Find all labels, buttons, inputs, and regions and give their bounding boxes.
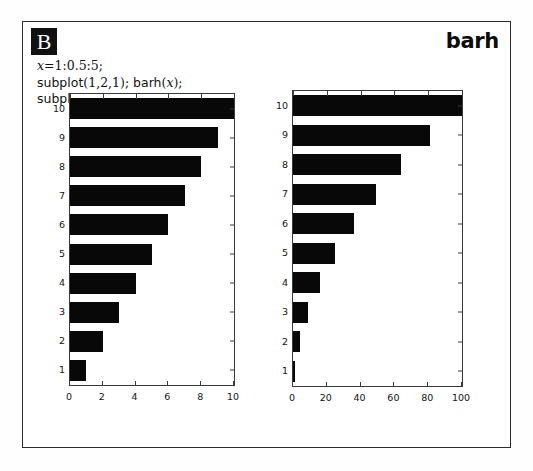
x-axis-tick	[461, 382, 462, 387]
y-axis-tick-label: 10	[276, 99, 288, 110]
y-axis-tick	[230, 166, 234, 167]
x-axis-tick	[393, 382, 394, 387]
y-axis-tick	[230, 283, 234, 284]
plots-container: 12345678910 0246810 12345678910 02040608…	[23, 22, 510, 447]
x-axis-tick-label: 0	[66, 391, 72, 402]
y-axis-tick	[458, 312, 462, 313]
y-axis-tick-label: 5	[59, 248, 65, 259]
bar	[70, 360, 86, 381]
y-axis-tick	[458, 282, 462, 283]
bar	[70, 331, 103, 352]
x-axis-tick	[427, 382, 428, 387]
y-axis-tick	[230, 108, 234, 109]
x-axis-tick	[200, 381, 201, 386]
y-axis-tick-label: 7	[59, 189, 65, 200]
bar	[293, 272, 320, 293]
bar	[70, 302, 119, 323]
x-axis-tick-top	[168, 94, 169, 99]
y-axis-tick-label: 4	[59, 277, 65, 288]
y-axis-tick-label: 10	[53, 102, 65, 113]
x-axis-tick-label: 60	[387, 392, 399, 403]
y-axis-tick-label: 1	[282, 365, 288, 376]
y-axis-tick	[458, 135, 462, 136]
y-axis-tick	[458, 194, 462, 195]
y-axis-tick-label: 9	[59, 131, 65, 142]
y-axis-tick-label: 9	[282, 129, 288, 140]
x-axis-tick-top	[70, 94, 71, 99]
bar	[293, 361, 295, 382]
figure-panel: B barh x=1:0.5:5;subplot(1,2,1); barh(x)…	[0, 0, 533, 471]
x-axis-tick-label: 80	[421, 392, 433, 403]
y-axis-tick	[230, 137, 234, 138]
y-axis-tick-label: 5	[282, 247, 288, 258]
y-axis-tick-label: 8	[59, 160, 65, 171]
bar	[293, 95, 462, 116]
plot-box-left	[69, 93, 235, 386]
bar	[293, 154, 401, 175]
x-axis-tick-label: 6	[164, 391, 170, 402]
x-axis-tick-top	[428, 91, 429, 96]
y-axis-tick	[458, 253, 462, 254]
x-axis-tick-top	[394, 91, 395, 96]
y-axis-tick-label: 2	[59, 335, 65, 346]
y-axis-tick-label: 8	[282, 158, 288, 169]
y-axis-tick-label: 1	[59, 364, 65, 375]
x-axis-tick-label: 40	[354, 392, 366, 403]
y-axis-tick	[230, 254, 234, 255]
x-axis-tick-top	[136, 94, 137, 99]
x-axis-tick-label: 100	[452, 392, 470, 403]
bar	[293, 302, 308, 323]
y-axis-tick	[458, 105, 462, 106]
y-axis-tick	[230, 370, 234, 371]
y-axis-tick-label: 3	[59, 306, 65, 317]
bar	[70, 98, 234, 119]
y-axis-left: 12345678910	[43, 93, 69, 386]
x-axis-tick-top	[462, 91, 463, 96]
y-axis-tick-label: 7	[282, 188, 288, 199]
y-axis-tick	[230, 224, 234, 225]
x-axis-tick-label: 2	[99, 391, 105, 402]
plot-box-right	[292, 90, 463, 387]
x-axis-tick-top	[201, 94, 202, 99]
bar	[70, 214, 168, 235]
y-axis-tick	[458, 164, 462, 165]
bar	[293, 243, 335, 264]
x-axis-tick-top	[293, 91, 294, 96]
x-axis-tick-label: 20	[320, 392, 332, 403]
x-axis-tick-top	[103, 94, 104, 99]
y-axis-right: 12345678910	[266, 90, 292, 387]
bar	[70, 127, 218, 148]
x-axis-tick	[292, 382, 293, 387]
bar	[293, 125, 430, 146]
y-axis-tick	[230, 341, 234, 342]
x-axis-tick	[102, 381, 103, 386]
y-axis-tick-label: 4	[282, 276, 288, 287]
y-axis-tick-label: 6	[282, 217, 288, 228]
x-axis-tick-label: 10	[227, 391, 239, 402]
x-axis-tick	[233, 381, 234, 386]
y-axis-tick	[230, 195, 234, 196]
y-axis-tick-label: 6	[59, 218, 65, 229]
bar	[70, 185, 185, 206]
bar	[70, 244, 152, 265]
y-axis-tick-label: 2	[282, 335, 288, 346]
bars-left	[70, 94, 234, 385]
y-axis-tick	[458, 223, 462, 224]
bar	[70, 156, 201, 177]
bars-right	[293, 91, 462, 386]
x-axis-tick-top	[361, 91, 362, 96]
y-axis-tick	[458, 371, 462, 372]
bar	[293, 184, 376, 205]
x-axis-tick	[326, 382, 327, 387]
y-axis-tick	[458, 341, 462, 342]
x-axis-right: 020406080100	[292, 387, 463, 409]
x-axis-tick-top	[327, 91, 328, 96]
x-axis-tick	[167, 381, 168, 386]
x-axis-left: 0246810	[69, 386, 235, 408]
x-axis-tick	[135, 381, 136, 386]
x-axis-tick-label: 0	[289, 392, 295, 403]
y-axis-tick	[230, 312, 234, 313]
figure-frame: B barh x=1:0.5:5;subplot(1,2,1); barh(x)…	[22, 21, 511, 448]
x-axis-tick-top	[234, 94, 235, 99]
x-axis-tick	[69, 381, 70, 386]
